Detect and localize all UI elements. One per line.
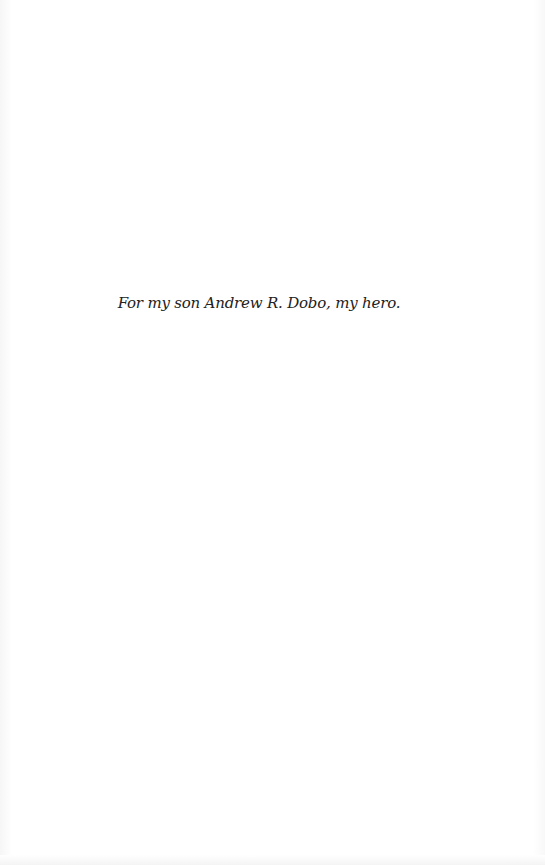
page-bottom-edge [0, 855, 545, 865]
dedication-text: For my son Andrew R. Dobo, my hero. [0, 294, 518, 312]
book-page: For my son Andrew R. Dobo, my hero. [0, 0, 545, 865]
